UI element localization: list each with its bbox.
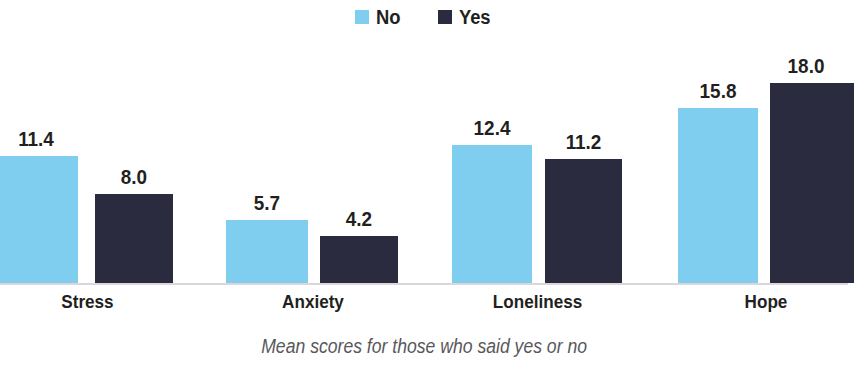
- chart-caption: Mean scores for those who said yes or no: [0, 336, 848, 356]
- bar-value-loneliness-no: 12.4: [456, 117, 528, 138]
- bar-hope-yes: [770, 83, 854, 283]
- bar-anxiety-yes: [320, 236, 398, 283]
- category-label-stress: Stress: [9, 292, 167, 311]
- chart-caption-text: Mean scores for those who said yes or no: [261, 336, 587, 356]
- bar-value-hope-yes: 18.0: [768, 55, 844, 76]
- bar-hope-no: [678, 108, 758, 283]
- bar-stress-no: [0, 156, 78, 283]
- bar-anxiety-no: [226, 220, 308, 283]
- bar-value-anxiety-yes: 4.2: [324, 208, 394, 229]
- category-label-loneliness: Loneliness: [459, 292, 617, 311]
- bar-value-stress-no: 11.4: [0, 128, 74, 149]
- plot-area: 11.4 8.0 5.7 4.2 12.4 11.2 15.8 18.0: [0, 0, 848, 286]
- x-axis-baseline: [0, 283, 848, 285]
- bar-loneliness-yes: [545, 159, 622, 283]
- bar-value-anxiety-no: 5.7: [230, 192, 304, 213]
- bar-loneliness-no: [452, 145, 532, 283]
- category-label-hope: Hope: [687, 292, 845, 311]
- bar-value-hope-no: 15.8: [682, 80, 754, 101]
- bar-value-stress-yes: 8.0: [99, 166, 169, 187]
- bar-stress-yes: [95, 194, 173, 283]
- bar-value-loneliness-yes: 11.2: [549, 131, 618, 152]
- category-label-anxiety: Anxiety: [237, 292, 390, 311]
